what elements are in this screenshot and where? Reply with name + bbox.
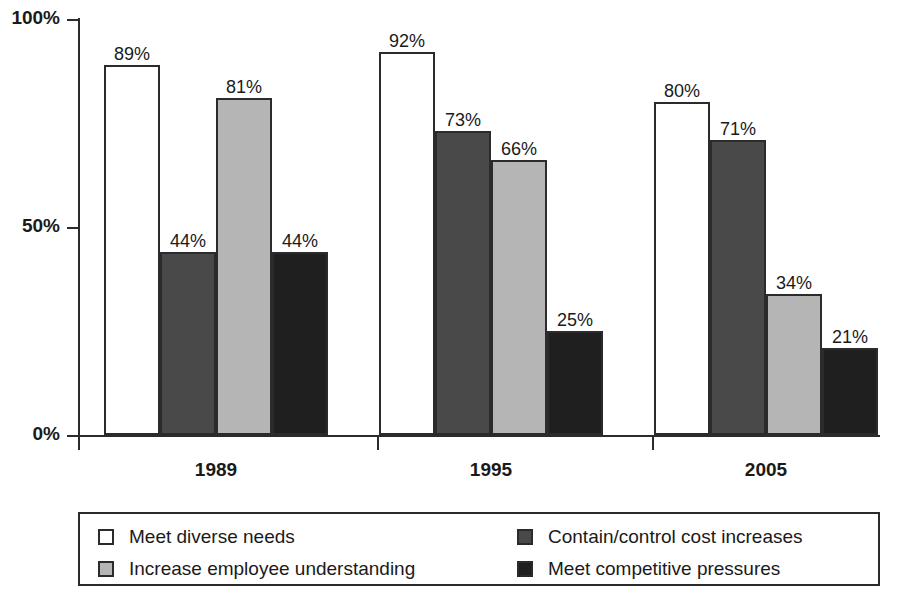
- bar: 44%: [272, 252, 328, 435]
- x-category-label-1989: 1989: [195, 459, 237, 481]
- bar-value-label: 25%: [557, 311, 593, 330]
- bar-value-label: 81%: [226, 78, 262, 97]
- bar: 21%: [822, 348, 878, 435]
- x-tick-boundary: [377, 437, 379, 450]
- bar-chart: 0%50%100% 89%44%81%44%92%73%66%25%80%71%…: [0, 0, 908, 602]
- bar: 80%: [654, 102, 710, 435]
- legend-item[interactable]: Meet diverse needs: [98, 524, 295, 550]
- bar-value-label: 34%: [776, 274, 812, 293]
- bar: 73%: [435, 131, 491, 435]
- y-tick-50pct: 50%: [67, 227, 78, 229]
- legend-item[interactable]: Increase employee understanding: [98, 556, 415, 582]
- y-tick-label: 50%: [22, 216, 60, 236]
- bar-value-label: 73%: [445, 111, 481, 130]
- bar: 34%: [766, 294, 822, 435]
- bar: 71%: [710, 140, 766, 435]
- x-category-label-2005: 2005: [745, 459, 787, 481]
- x-tick-origin: [78, 437, 80, 450]
- legend-swatch-icon: [517, 561, 533, 577]
- legend-label: Meet competitive pressures: [548, 558, 780, 580]
- chart-legend: Meet diverse needsContain/control cost i…: [78, 512, 880, 586]
- bar-value-label: 92%: [389, 32, 425, 51]
- legend-label: Contain/control cost increases: [548, 526, 803, 548]
- y-tick-100pct: 100%: [67, 19, 78, 21]
- legend-swatch-icon: [517, 529, 533, 545]
- bar: 92%: [379, 52, 435, 435]
- legend-swatch-icon: [98, 561, 114, 577]
- y-tick-label: 0%: [33, 424, 60, 444]
- bar-value-label: 66%: [501, 140, 537, 159]
- legend-item[interactable]: Meet competitive pressures: [517, 556, 780, 582]
- bar-value-label: 21%: [832, 328, 868, 347]
- bar-value-label: 89%: [114, 45, 150, 64]
- legend-label: Increase employee understanding: [129, 558, 415, 580]
- x-category-label-1995: 1995: [470, 459, 512, 481]
- bar-value-label: 44%: [282, 232, 318, 251]
- legend-swatch-icon: [98, 529, 114, 545]
- legend-label: Meet diverse needs: [129, 526, 295, 548]
- plot-area: 0%50%100% 89%44%81%44%92%73%66%25%80%71%…: [78, 18, 880, 437]
- y-tick-label: 100%: [11, 8, 60, 28]
- x-tick-boundary: [652, 437, 654, 450]
- y-axis-line: [78, 18, 80, 437]
- bar: 25%: [547, 331, 603, 435]
- bar-value-label: 44%: [170, 232, 206, 251]
- bar-value-label: 80%: [664, 82, 700, 101]
- x-axis-line: [78, 435, 880, 437]
- bar: 81%: [216, 98, 272, 435]
- bar: 89%: [104, 65, 160, 435]
- bar: 44%: [160, 252, 216, 435]
- bar: 66%: [491, 160, 547, 435]
- bar-value-label: 71%: [720, 120, 756, 139]
- legend-item[interactable]: Contain/control cost increases: [517, 524, 803, 550]
- y-tick-0pct: 0%: [67, 435, 78, 437]
